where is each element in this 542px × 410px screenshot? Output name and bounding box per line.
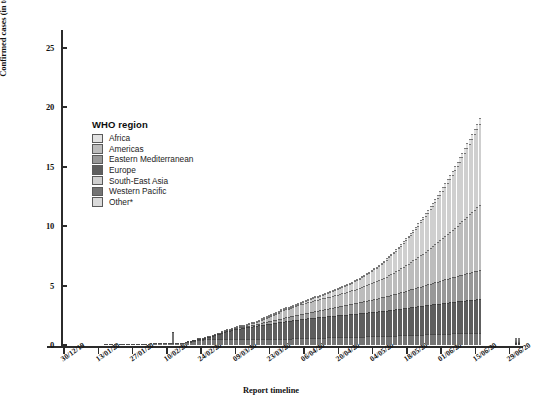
legend-item-africa[interactable]: Africa	[92, 133, 193, 144]
legend-item-other[interactable]: Other*	[92, 197, 193, 208]
bar-segment-western-pacific	[479, 333, 481, 345]
bar-segment-americas	[479, 205, 481, 270]
covid-stacked-bar-chart: Confirmed cases (in ten thousands) Repor…	[0, 0, 542, 410]
legend-swatch-icon	[92, 187, 103, 196]
y-tick-label: 15	[24, 162, 54, 172]
legend-item-europe[interactable]: Europe	[92, 165, 193, 176]
legend-item-eastern-mediterranean[interactable]: Eastern Mediterranean	[92, 154, 193, 165]
y-tick-label: 25	[24, 43, 54, 53]
y-tick-label: 20	[24, 102, 54, 112]
table-row	[518, 338, 520, 345]
legend-swatch-icon	[92, 197, 103, 206]
legend-item-label: Americas	[109, 144, 144, 154]
bar-segment-europe	[479, 299, 481, 333]
legend-item-south-east-asia[interactable]: South-East Asia	[92, 175, 193, 186]
legend-item-western-pacific[interactable]: Western Pacific	[92, 186, 193, 197]
legend-swatch-icon	[92, 155, 103, 164]
legend-swatch-icon	[92, 176, 103, 185]
legend-item-label: Western Pacific	[109, 186, 166, 196]
legend-items: AfricaAmericasEastern MediterraneanEurop…	[92, 133, 193, 207]
y-axis-title: Confirmed cases (in ten thousands)	[0, 0, 8, 104]
y-tick-label: 0	[24, 340, 54, 350]
legend-item-label: Eastern Mediterranean	[109, 154, 193, 164]
legend-item-label: South-East Asia	[109, 176, 168, 186]
legend-item-label: Europe	[109, 165, 136, 175]
legend-item-label: Africa	[109, 133, 130, 143]
legend-item-label: Other*	[109, 197, 133, 207]
bar-segment-western-pacific-spike	[172, 332, 174, 343]
legend-swatch-icon	[92, 134, 103, 143]
y-tick-label: 10	[24, 221, 54, 231]
legend: WHO region AfricaAmericasEastern Mediter…	[92, 119, 193, 207]
legend-item-americas[interactable]: Americas	[92, 144, 193, 155]
legend-title: WHO region	[92, 119, 193, 130]
y-tick-label: 5	[24, 281, 54, 291]
bar-segment-south-east-asia	[479, 124, 481, 205]
bar-segment-western-pacific	[518, 344, 520, 345]
table-row	[479, 118, 481, 345]
x-axis-title: Report timeline	[0, 386, 542, 395]
legend-swatch-icon	[92, 165, 103, 174]
bar-segment-eastern-mediterranean	[479, 270, 481, 299]
legend-swatch-icon	[92, 144, 103, 153]
